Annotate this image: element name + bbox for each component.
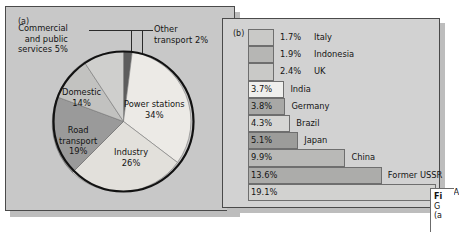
- pie-label-other-transport: Other transport 2%: [154, 24, 208, 45]
- bar-value-label: 1.7%: [280, 29, 301, 46]
- bar-category-label: India: [290, 81, 310, 98]
- bar-category-label: Italy: [314, 29, 332, 46]
- pie-label-industry-line1: Industry: [114, 147, 148, 158]
- bar-category-label: Brazil: [296, 115, 319, 132]
- bar-value-label: 3.8%: [251, 98, 272, 115]
- panel-b: (b) 1.7%Italy1.9%Indonesia2.4%UK3.7%Indi…: [222, 18, 440, 208]
- panel-a: (a) Commer: [5, 6, 235, 211]
- pie-label-power-line1: Power stations: [124, 99, 185, 110]
- caption-line-2: G: [434, 202, 454, 212]
- pie-label-other-line2: transport 2%: [154, 35, 208, 46]
- pie-label-industry-line2: 26%: [114, 158, 148, 169]
- caption-line-1: Fi: [434, 192, 454, 202]
- bar-value-label: 5.1%: [251, 132, 272, 149]
- pie-chart-svg: [51, 49, 196, 194]
- pie-label-commercial-line2: and public: [18, 34, 68, 45]
- bar-category-label: Japan: [304, 132, 327, 149]
- pie-chart: [51, 49, 196, 194]
- bar-category-label: China: [351, 149, 375, 166]
- bar-row: 19.1%USA: [248, 184, 438, 201]
- bar-value-label: 19.1%: [251, 184, 277, 201]
- bar-row: 4.3%Brazil: [248, 115, 438, 132]
- bar-value-label: 1.9%: [280, 46, 301, 63]
- pie-label-commercial-public-services: Commercial and public services 5%: [18, 23, 68, 55]
- panel-b-tag: (b): [233, 29, 244, 38]
- bar-chart: 1.7%Italy1.9%Indonesia2.4%UK3.7%India3.8…: [248, 29, 438, 201]
- pie-label-road-transport: Road transport 19%: [59, 125, 97, 157]
- pie-label-road-line3: 19%: [59, 146, 97, 157]
- bar-uk: [248, 63, 274, 80]
- bar-row: 2.4%UK: [248, 63, 438, 80]
- bar-row: 5.1%Japan: [248, 132, 438, 149]
- pie-label-power-stations: Power stations 34%: [124, 99, 185, 120]
- bar-value-label: 9.9%: [251, 149, 272, 166]
- bar-value-label: 13.6%: [251, 167, 277, 184]
- pie-label-road-line2: transport: [59, 136, 97, 147]
- bar-indonesia: [248, 46, 274, 63]
- bar-category-label: UK: [314, 63, 326, 80]
- bar-category-label: Indonesia: [314, 46, 354, 63]
- bar-row: 1.9%Indonesia: [248, 46, 438, 63]
- bar-row: 3.8%Germany: [248, 98, 438, 115]
- pie-label-commercial-line3: services 5%: [18, 44, 68, 55]
- bar-value-label: 3.7%: [251, 81, 272, 98]
- bar-row: 9.9%China: [248, 149, 438, 166]
- pie-label-commercial-line1: Commercial: [18, 23, 68, 34]
- pie-label-domestic-line2: 14%: [62, 98, 101, 109]
- pie-label-domestic-line1: Domestic: [62, 87, 101, 98]
- figure-caption: Fi G (a: [430, 188, 454, 232]
- bar-value-label: 2.4%: [280, 63, 301, 80]
- bar-row: 1.7%Italy: [248, 29, 438, 46]
- bar-value-label: 4.3%: [251, 115, 272, 132]
- pie-label-domestic: Domestic 14%: [62, 87, 101, 108]
- leader-line-other-h: [131, 30, 153, 31]
- bar-italy: [248, 29, 274, 46]
- pie-label-power-line2: 34%: [124, 110, 185, 121]
- pie-label-road-line1: Road: [59, 125, 97, 136]
- bar-row: 3.7%India: [248, 81, 438, 98]
- caption-line-3: (a: [434, 211, 454, 221]
- pie-label-other-line1: Other: [154, 24, 208, 35]
- pie-label-industry: Industry 26%: [114, 147, 148, 168]
- bar-row: 13.6%Former USSR: [248, 167, 438, 184]
- bar-category-label: Germany: [291, 98, 329, 115]
- bar-category-label: Former USSR: [388, 167, 442, 184]
